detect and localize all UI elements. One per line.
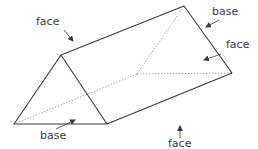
triangular-prism-diagram: face base face base face [0, 0, 258, 149]
arrow-face-right [204, 54, 221, 60]
edge-bottom-right [107, 73, 232, 124]
hidden-edge-back-left-to-back-right [137, 73, 232, 74]
label-arrows [56, 20, 221, 138]
label-face-bottom: face [168, 138, 191, 149]
label-base-bottom: base [40, 130, 66, 142]
arrow-face-top [64, 30, 73, 41]
edge-top-ridge [61, 6, 184, 55]
front-base-triangle [14, 55, 107, 124]
label-face-top: face [36, 16, 59, 28]
hidden-edge-back-left-to-front-left [14, 74, 137, 124]
arrow-base-top-right [206, 20, 219, 27]
label-face-right: face [226, 39, 249, 51]
label-base-top-right: base [212, 6, 238, 18]
hidden-edge-back-apex-to-back-left [137, 6, 184, 74]
